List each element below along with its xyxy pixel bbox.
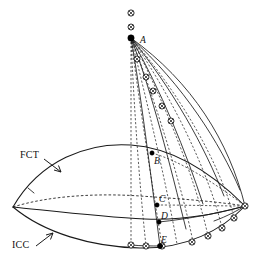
marker-ring-bottom-4	[205, 233, 211, 239]
marker-ring-right-vertex	[242, 203, 248, 209]
right-fold-curve-1	[214, 206, 245, 221]
marker-ring-apex-5	[159, 103, 165, 109]
point-label-B: B	[154, 156, 160, 166]
dashed-ray-7	[131, 38, 234, 218]
solid-ray-4	[131, 38, 224, 196]
dashed-ray-3	[131, 38, 177, 244]
surface-diagram: A B C D E FCT ICC	[0, 0, 262, 265]
point-label-C: C	[159, 194, 166, 204]
fct-top-ridge-curve	[13, 145, 245, 207]
rung-C-to-right	[157, 205, 245, 206]
marker-ring-bottom-6	[231, 215, 237, 221]
hidden-rim-dashed-curve	[13, 195, 245, 207]
marker-ring-bottom-5	[219, 225, 225, 231]
left-tick-mark	[28, 188, 34, 193]
point-text-labels: A B C D E	[139, 35, 168, 245]
icc-label: ICC	[12, 239, 29, 250]
point-label-A: A	[139, 35, 146, 45]
dashed-ray-6	[131, 38, 222, 228]
point-A-dot	[128, 35, 134, 41]
surface-curves	[13, 145, 245, 248]
point-label-D: D	[160, 211, 168, 221]
marker-ring-apex-0	[128, 10, 134, 16]
figure-canvas: A B C D E FCT ICC	[0, 0, 262, 265]
fct-label: FCT	[20, 149, 39, 160]
marker-ring-apex-4	[150, 88, 156, 94]
middle-rim-curve	[13, 206, 245, 219]
marker-ring-bottom-0	[128, 242, 134, 248]
marker-ring-bottom-3	[189, 239, 195, 245]
icc-arrow	[36, 233, 53, 246]
point-B-dot	[150, 151, 154, 155]
icc-bottom-curve	[13, 206, 245, 248]
marker-ring-apex-1	[128, 24, 134, 30]
marker-ring-apex-6	[168, 118, 174, 124]
marker-ring-apex-2	[134, 56, 140, 62]
marker-ring-bottom-1	[143, 243, 149, 249]
point-label-E: E	[160, 235, 167, 245]
marker-ring-apex-3	[143, 74, 149, 80]
